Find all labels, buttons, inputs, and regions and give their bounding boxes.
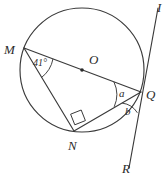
right-angle-marker-n: [71, 110, 86, 125]
angle-arc-a: [114, 82, 117, 107]
geometry-canvas: M O N Q I R 41° a b: [0, 0, 167, 176]
label-tangent-bottom-r: R: [121, 161, 130, 176]
center-point-o: [80, 68, 84, 72]
label-center-o: O: [89, 52, 99, 67]
segment-mn: [24, 48, 74, 131]
label-point-q: Q: [146, 87, 156, 102]
label-angle-b: b: [125, 105, 131, 117]
label-angle-41-degrees: 41°: [33, 57, 47, 68]
label-point-m: M: [3, 42, 16, 57]
geometry-figure: M O N Q I R 41° a b: [0, 0, 167, 176]
label-point-n: N: [67, 138, 78, 153]
label-angle-a: a: [119, 87, 125, 99]
segment-nq: [74, 92, 141, 131]
label-tangent-top-i: I: [156, 0, 162, 15]
